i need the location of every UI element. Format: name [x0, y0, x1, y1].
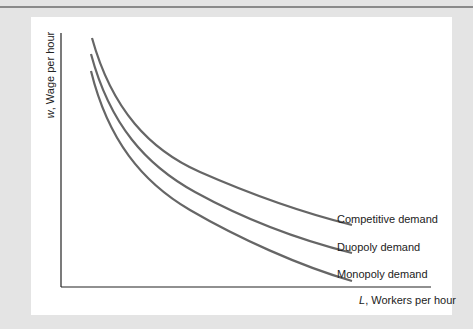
x-axis-label: L, Workers per hour [359, 294, 456, 306]
label-monopoly-demand: Monopoly demand [337, 268, 428, 280]
label-duopoly-demand: Duopoly demand [337, 241, 420, 253]
curve-monopoly-demand [91, 71, 352, 281]
curve-duopoly-demand [91, 54, 352, 253]
y-axis-label: w, Wage per hour [44, 32, 56, 118]
label-competitive-demand: Competitive demand [337, 213, 438, 225]
curve-competitive-demand [92, 38, 352, 225]
